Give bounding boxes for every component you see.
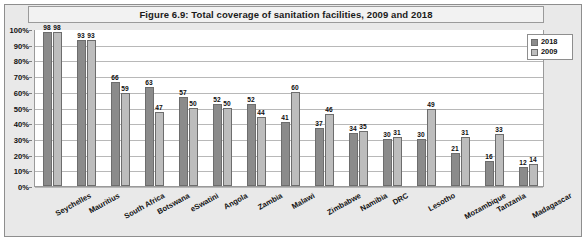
bar-2018[interactable] (519, 167, 528, 186)
bar-2009[interactable] (257, 117, 266, 186)
y-axis-tick-mark (29, 124, 32, 125)
bar-2009[interactable] (325, 114, 334, 186)
bar-2009[interactable] (529, 164, 538, 186)
bar-2018[interactable] (281, 122, 290, 186)
y-axis-tick-label: 50% (14, 104, 29, 113)
bar-2018[interactable] (315, 128, 324, 186)
bar-2009[interactable] (189, 108, 198, 187)
bar-2009[interactable] (53, 32, 62, 186)
bar-2009[interactable] (359, 131, 368, 186)
y-axis-tick-label: 30% (14, 135, 29, 144)
bar-group: 1633 (477, 30, 511, 186)
bar-value-label: 30 (417, 131, 424, 138)
bar-2018[interactable] (213, 104, 222, 186)
x-axis-category-labels: SeychellesMauritiusSouth AfricaBotswanae… (34, 187, 544, 237)
bar-2009[interactable] (291, 92, 300, 186)
bar-2018[interactable] (77, 40, 86, 186)
y-axis-tick-mark (29, 30, 32, 31)
x-axis-label-zimbabwe: Zimbabwe (326, 191, 363, 217)
legend-label: 2018 (541, 38, 557, 45)
legend-swatch-icon (531, 39, 538, 46)
bar-value-label: 35 (359, 123, 366, 130)
y-axis-tick-label: 20% (14, 151, 29, 160)
bar-value-label: 63 (145, 79, 152, 86)
bar-value-label: 37 (315, 120, 322, 127)
x-axis-label-zambia: Zambia (256, 191, 284, 212)
bar-value-label: 49 (427, 101, 434, 108)
y-axis-tick-mark (29, 93, 32, 94)
legend-item-2009[interactable]: 2009 (531, 47, 569, 57)
chart-title: Figure 6.9: Total coverage of sanitation… (139, 9, 432, 20)
bar-2018[interactable] (179, 97, 188, 186)
bar-group: 3049 (409, 30, 443, 186)
bar-group: 3031 (375, 30, 409, 186)
figure-root: Figure 6.9: Total coverage of sanitation… (0, 0, 587, 242)
bar-group: 3435 (341, 30, 375, 186)
y-axis-tick-mark (29, 77, 32, 78)
bar-value-label: 30 (383, 131, 390, 138)
bars-layer: 9898939366596347575052505244416037463435… (35, 30, 543, 186)
bar-group: 5244 (239, 30, 273, 186)
chart-title-bar: Figure 6.9: Total coverage of sanitation… (28, 6, 544, 23)
x-axis-label-seychelles: Seychelles (54, 191, 93, 218)
bar-2018[interactable] (485, 161, 494, 186)
bar-2018[interactable] (111, 82, 120, 186)
bar-2009[interactable] (223, 108, 232, 187)
bar-2009[interactable] (121, 93, 130, 186)
y-axis-tick-label: 10% (14, 167, 29, 176)
bar-value-label: 16 (485, 153, 492, 160)
bar-value-label: 98 (53, 24, 60, 31)
bar-group: 6659 (103, 30, 137, 186)
y-axis-tick-label: 0% (18, 183, 29, 192)
y-axis-tick-mark (29, 187, 32, 188)
bar-2018[interactable] (383, 139, 392, 186)
bar-value-label: 50 (189, 100, 196, 107)
bar-value-label: 46 (325, 106, 332, 113)
bar-value-label: 14 (529, 156, 536, 163)
y-axis-tick-label: 40% (14, 120, 29, 129)
bar-value-label: 50 (223, 100, 230, 107)
bar-2018[interactable] (451, 153, 460, 186)
bar-value-label: 41 (281, 114, 288, 121)
bar-group: 3746 (307, 30, 341, 186)
y-axis-tick-label: 100% (10, 26, 29, 35)
bar-value-label: 52 (213, 96, 220, 103)
bar-value-label: 60 (291, 84, 298, 91)
bar-value-label: 47 (155, 104, 162, 111)
y-axis: 0%10%20%30%40%50%60%70%80%90%100% (0, 30, 32, 187)
bar-2018[interactable] (417, 139, 426, 186)
bar-2018[interactable] (247, 104, 256, 186)
bar-2009[interactable] (393, 137, 402, 186)
y-axis-tick-label: 70% (14, 73, 29, 82)
bar-2009[interactable] (461, 137, 470, 186)
bar-group: 9393 (69, 30, 103, 186)
bar-2018[interactable] (145, 87, 154, 186)
chart-legend: 20182009 (527, 34, 573, 60)
bar-value-label: 93 (87, 32, 94, 39)
legend-item-2018[interactable]: 2018 (531, 37, 569, 47)
bar-value-label: 12 (519, 159, 526, 166)
bar-value-label: 59 (121, 85, 128, 92)
bar-2018[interactable] (43, 32, 52, 186)
x-axis-label-namibia: Namibia (359, 191, 389, 213)
y-axis-tick-mark (29, 140, 32, 141)
bar-value-label: 21 (451, 145, 458, 152)
bar-group: 5250 (205, 30, 239, 186)
bar-2009[interactable] (495, 134, 504, 186)
bar-value-label: 93 (77, 32, 84, 39)
bar-value-label: 34 (349, 125, 356, 132)
x-axis-label-angola: Angola (222, 191, 249, 211)
bar-2009[interactable] (87, 40, 96, 186)
bar-2009[interactable] (427, 109, 436, 186)
bar-value-label: 44 (257, 109, 264, 116)
bar-value-label: 33 (495, 126, 502, 133)
y-axis-tick-mark (29, 46, 32, 47)
bar-2018[interactable] (349, 133, 358, 186)
bar-group: 2131 (443, 30, 477, 186)
bar-2009[interactable] (155, 112, 164, 186)
x-axis-label-mauritius: Mauritius (87, 191, 121, 215)
bar-value-label: 66 (111, 74, 118, 81)
bar-group: 4160 (273, 30, 307, 186)
y-axis-tick-mark (29, 156, 32, 157)
plot-area: 9898939366596347575052505244416037463435… (34, 30, 544, 187)
